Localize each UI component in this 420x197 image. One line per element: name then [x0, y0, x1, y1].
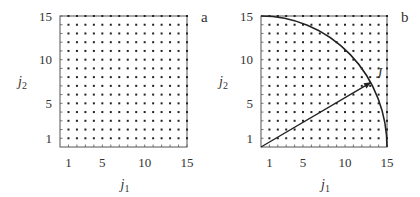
lattice-point — [268, 120, 270, 122]
lattice-point — [186, 59, 188, 61]
lattice-point — [378, 111, 380, 113]
lattice-point — [319, 129, 321, 131]
lattice-point — [135, 15, 137, 17]
lattice-point — [361, 85, 363, 87]
lattice-point — [84, 32, 86, 34]
lattice-point — [268, 111, 270, 113]
lattice-point — [386, 15, 388, 17]
lattice-point — [93, 15, 95, 17]
x-tick-label: 5 — [300, 155, 307, 170]
lattice-point — [336, 15, 338, 17]
plot-frame — [60, 16, 187, 147]
lattice-point — [101, 24, 103, 26]
lattice-point — [302, 67, 304, 69]
x-tick-label: 1 — [266, 155, 273, 170]
lattice-point — [118, 59, 120, 61]
lattice-point — [127, 24, 129, 26]
lattice-point — [369, 41, 371, 43]
lattice-point — [344, 129, 346, 131]
lattice-point — [336, 24, 338, 26]
lattice-point — [285, 50, 287, 52]
lattice-point — [101, 67, 103, 69]
lattice-point — [135, 32, 137, 34]
lattice-point — [186, 137, 188, 139]
lattice-point — [84, 41, 86, 43]
lattice-point — [152, 111, 154, 113]
lattice-point — [277, 102, 279, 104]
lattice-point — [144, 50, 146, 52]
lattice-point — [144, 67, 146, 69]
lattice-point — [327, 137, 329, 139]
lattice-point — [327, 67, 329, 69]
lattice-point — [152, 76, 154, 78]
lattice-point — [144, 76, 146, 78]
lattice-point — [84, 111, 86, 113]
lattice-point — [161, 85, 163, 87]
lattice-point — [310, 111, 312, 113]
lattice-point — [369, 76, 371, 78]
lattice-point — [76, 59, 78, 61]
lattice-point — [110, 41, 112, 43]
lattice-point — [93, 129, 95, 131]
lattice-point — [169, 15, 171, 17]
lattice-point — [169, 32, 171, 34]
lattice-point — [310, 15, 312, 17]
lattice-point — [127, 15, 129, 17]
lattice-point — [361, 15, 363, 17]
lattice-point — [67, 41, 69, 43]
lattice-point — [127, 59, 129, 61]
lattice-point — [127, 41, 129, 43]
lattice-point — [152, 85, 154, 87]
lattice-point — [369, 67, 371, 69]
lattice-point — [67, 76, 69, 78]
vector-J-line — [261, 82, 371, 147]
lattice-point — [135, 137, 137, 139]
lattice-point — [84, 94, 86, 96]
lattice-point — [178, 120, 180, 122]
x-tick-label: 15 — [181, 155, 194, 170]
lattice-point — [67, 67, 69, 69]
lattice-point — [67, 59, 69, 61]
lattice-point — [93, 85, 95, 87]
lattice-point — [144, 94, 146, 96]
lattice-point — [127, 102, 129, 104]
lattice-point — [101, 59, 103, 61]
lattice-point — [268, 102, 270, 104]
lattice-point — [76, 94, 78, 96]
lattice-point — [285, 15, 287, 17]
lattice-point — [178, 129, 180, 131]
lattice-point — [135, 76, 137, 78]
lattice-point — [310, 24, 312, 26]
lattice-point — [186, 76, 188, 78]
lattice-point — [76, 76, 78, 78]
lattice-point — [84, 24, 86, 26]
lattice-point — [277, 67, 279, 69]
lattice-point — [277, 50, 279, 52]
lattice-point — [268, 129, 270, 131]
lattice-point — [152, 94, 154, 96]
lattice-point — [186, 129, 188, 131]
lattice-point — [152, 129, 154, 131]
lattice-point — [268, 137, 270, 139]
figure: 115510101515j1j2a 115510101515j1j2bJ — [0, 0, 420, 197]
lattice-point — [361, 129, 363, 131]
lattice-point — [352, 111, 354, 113]
lattice-point — [268, 59, 270, 61]
lattice-point — [294, 111, 296, 113]
lattice-point — [118, 32, 120, 34]
lattice-point — [118, 15, 120, 17]
lattice-point — [285, 41, 287, 43]
lattice-point — [285, 120, 287, 122]
lattice-point — [386, 85, 388, 87]
lattice-point — [118, 120, 120, 122]
lattice-point — [386, 59, 388, 61]
lattice-point — [268, 24, 270, 26]
lattice-point — [369, 24, 371, 26]
panel-label: a — [201, 9, 208, 25]
lattice-point — [84, 59, 86, 61]
lattice-point — [319, 41, 321, 43]
lattice-point — [186, 15, 188, 17]
lattice-point — [110, 32, 112, 34]
lattice-point — [161, 50, 163, 52]
lattice-point — [352, 120, 354, 122]
